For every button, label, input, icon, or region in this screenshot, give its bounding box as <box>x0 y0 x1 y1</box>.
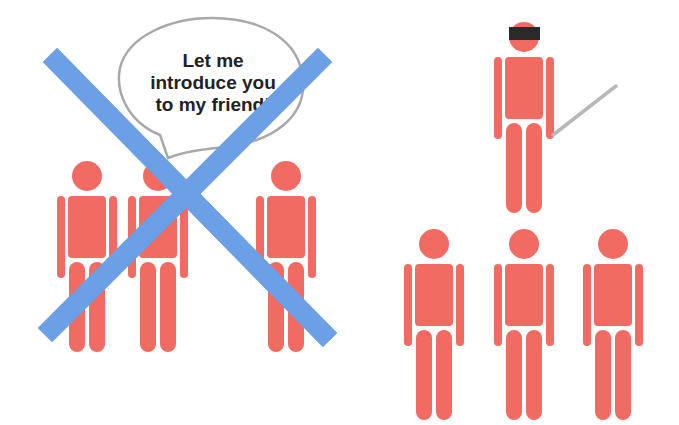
audience-person-2 <box>494 229 554 420</box>
audience-person-1 <box>404 229 464 420</box>
speech-line-1: Let me <box>118 50 308 72</box>
blindfold-icon <box>509 27 540 40</box>
speech-line-2: introduce you <box>118 72 308 94</box>
speech-bubble-text: Let me introduce you to my friend! <box>118 50 308 116</box>
speech-line-3: to my friend! <box>118 94 308 116</box>
illustration-canvas <box>0 0 679 425</box>
pointer-icon <box>553 86 616 135</box>
audience-person-3 <box>583 229 643 420</box>
presenter-figure <box>494 22 616 213</box>
